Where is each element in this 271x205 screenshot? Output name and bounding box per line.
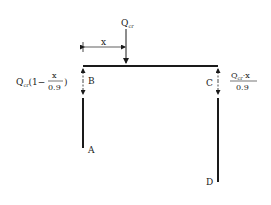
- load-label: Qcr: [121, 18, 134, 29]
- svg-text:0.9: 0.9: [236, 83, 249, 92]
- left-reaction-formula: Qcr(1− x 0.9 ): [16, 71, 68, 92]
- point-c-label: C: [206, 78, 213, 88]
- svg-text:Qcr·x: Qcr·x: [231, 71, 250, 81]
- point-a-label: A: [87, 145, 95, 155]
- point-d-label: D: [206, 177, 213, 187]
- right-reaction-formula: Qcr·x 0.9: [230, 71, 257, 92]
- svg-text:0.9: 0.9: [48, 83, 61, 92]
- point-b-label: B: [88, 76, 95, 86]
- frame-diagram: Qcr x B A C D Qcr(1− x 0.9 ) Qcr·x 0.9: [0, 0, 271, 205]
- svg-text:Qcr(1−: Qcr(1−: [16, 77, 45, 88]
- dimension-label: x: [101, 37, 106, 47]
- svg-text:x: x: [52, 71, 57, 80]
- svg-text:): ): [64, 77, 68, 87]
